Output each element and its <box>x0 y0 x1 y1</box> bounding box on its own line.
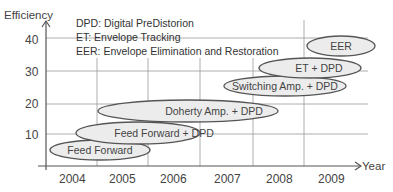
legend-eer: EER: Envelope Elimination and Restoratio… <box>76 44 279 58</box>
bubble-label-eer: EER <box>330 40 352 52</box>
abbreviation-legend: DPD: Digital PreDistorion ET: Envelope T… <box>76 16 279 58</box>
legend-dpd: DPD: Digital PreDistorion <box>76 16 279 30</box>
x-tick-2007: 2007 <box>214 172 241 186</box>
x-tick-2005: 2005 <box>109 172 136 186</box>
y-axis-title: Efficiency <box>4 9 53 21</box>
y-tick-40: 40 <box>25 33 39 47</box>
bubble-label-et-dpd: ET + DPD <box>295 62 343 74</box>
y-tick-30: 30 <box>25 65 39 79</box>
bubble-label-feed-forward: Feed Forward <box>67 144 133 156</box>
x-tick-2004: 2004 <box>59 172 86 186</box>
y-tick-10: 10 <box>25 128 39 142</box>
x-tick-2009: 2009 <box>318 172 345 186</box>
legend-et: ET: Envelope Tracking <box>76 30 279 44</box>
bubble-label-feed-forward-dpd: Feed Forward + DPD <box>114 127 214 139</box>
y-tick-20: 20 <box>25 97 39 111</box>
bubble-label-switching-dpd: Switching Amp. + DPD <box>232 80 338 92</box>
bubble-label-doherty-dpd: Doherty Amp. + DPD <box>165 105 263 117</box>
x-tick-2006: 2006 <box>160 172 187 186</box>
x-tick-2008: 2008 <box>266 172 293 186</box>
x-axis-title: Year <box>362 160 385 172</box>
